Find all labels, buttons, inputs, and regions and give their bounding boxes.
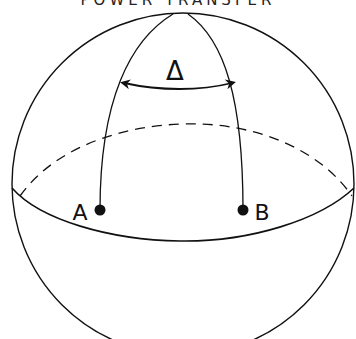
meridian-b <box>188 14 243 210</box>
sphere-diagram: Δ A B <box>0 0 356 339</box>
meridian-a <box>100 14 173 210</box>
delta-label: Δ <box>166 56 184 86</box>
point-b-dot <box>238 205 249 216</box>
equator-front <box>12 188 354 241</box>
point-a-dot <box>95 205 106 216</box>
point-b-label: B <box>254 200 269 225</box>
point-a-label: A <box>72 200 87 225</box>
equator-back-dashed <box>20 124 352 196</box>
